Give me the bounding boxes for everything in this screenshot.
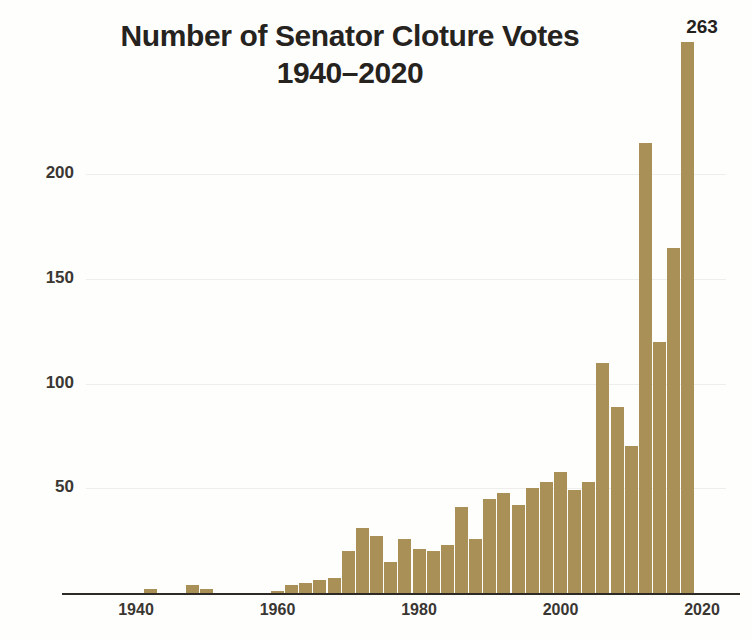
bar-1994 xyxy=(512,505,525,593)
bar-1948 xyxy=(186,585,199,593)
bar-2006 xyxy=(596,363,609,593)
bar-1966 xyxy=(313,580,326,593)
bar-1974 xyxy=(370,536,383,593)
gridline xyxy=(86,174,726,175)
bar-1978 xyxy=(398,539,411,593)
bar-1976 xyxy=(384,562,397,593)
bar-1990 xyxy=(483,499,496,593)
y-tick-label: 150 xyxy=(14,268,74,288)
bar-1996 xyxy=(526,488,539,593)
bar-2000 xyxy=(554,472,567,593)
bar-2012 xyxy=(639,143,652,593)
cloture-votes-bar-chart: Number of Senator Cloture Votes 1940–202… xyxy=(0,0,752,640)
gridline xyxy=(86,279,726,280)
x-axis-line xyxy=(62,593,740,595)
bar-1982 xyxy=(427,551,440,593)
bar-1964 xyxy=(299,583,312,593)
x-tick-label: 2020 xyxy=(684,601,720,619)
bar-1972 xyxy=(356,528,369,593)
x-tick-label: 2000 xyxy=(543,601,579,619)
bar-1988 xyxy=(469,539,482,593)
bar-1980 xyxy=(413,549,426,593)
bar-1986 xyxy=(455,507,468,593)
y-tick-label: 50 xyxy=(14,477,74,497)
bar-2008 xyxy=(611,407,624,593)
bar-1984 xyxy=(441,545,454,593)
bar-2010 xyxy=(625,446,638,593)
bar-1998 xyxy=(540,482,553,593)
bar-1992 xyxy=(497,493,510,594)
x-tick-label: 1980 xyxy=(401,601,437,619)
bar-1962 xyxy=(285,585,298,593)
bar-2004 xyxy=(582,482,595,593)
bar-2016 xyxy=(667,248,680,594)
bar-2002 xyxy=(568,490,581,593)
bar-2018 xyxy=(681,42,694,593)
plot-area: 50100150200 19401960198020002020 263 xyxy=(0,0,752,640)
gridline xyxy=(86,384,726,385)
bar-2014 xyxy=(653,342,666,593)
bar-1970 xyxy=(342,551,355,593)
bar-1968 xyxy=(328,578,341,593)
y-tick-label: 100 xyxy=(14,373,74,393)
x-tick-label: 1960 xyxy=(260,601,296,619)
x-tick-label: 1940 xyxy=(118,601,154,619)
y-tick-label: 200 xyxy=(14,163,74,183)
value-annotation-263: 263 xyxy=(686,16,718,38)
